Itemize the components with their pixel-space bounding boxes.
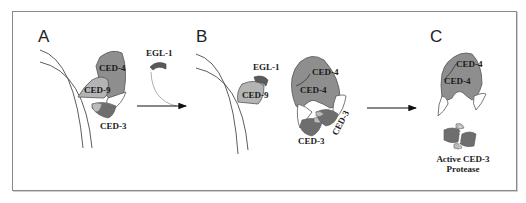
- ced3-left-label: CED-3: [298, 136, 325, 146]
- ced3-label: CED-3: [100, 121, 127, 131]
- ced9-label: CED-9: [242, 90, 269, 100]
- protease-caption-line2: Protease: [447, 164, 480, 174]
- ced9-label: CED-9: [84, 85, 111, 95]
- ced4-oligomer: [292, 56, 341, 108]
- egl1-binding-curve: [151, 72, 176, 106]
- ced3-subunit: [460, 132, 476, 147]
- ced4-top-label: CED-4: [312, 67, 339, 77]
- ced4-card-left: [438, 96, 448, 116]
- panel-c-letter: C: [430, 27, 442, 46]
- egl1-protein: [150, 63, 166, 70]
- panel-c: C CED-4 CED-4 Active CED-3 Protease: [430, 27, 490, 174]
- protease-caption-line1: Active CED-3: [436, 154, 490, 164]
- ced4-bottom-label: CED-4: [300, 85, 327, 95]
- panel-b: B EGL-1 CED-9 CED-4 CED-4 CED-3 CED-3: [196, 27, 351, 154]
- ced3-subunit: [444, 128, 460, 143]
- egl1-label: EGL-1: [253, 62, 280, 72]
- ced4-top-label: CED-4: [456, 59, 483, 69]
- egl1-label: EGL-1: [146, 48, 173, 58]
- panel-a-letter: A: [38, 27, 50, 46]
- membrane-inner: [196, 68, 248, 150]
- membrane-outer: [40, 50, 83, 148]
- panel-a: A CED-4 CED-9 CED-3 EGL-1: [38, 27, 176, 148]
- ced4-label: CED-4: [99, 63, 126, 73]
- active-ced3-protease: [444, 124, 476, 150]
- ced4-card-right: [473, 93, 486, 110]
- ced4-bottom-label: CED-4: [444, 76, 471, 86]
- panel-b-letter: B: [196, 27, 207, 46]
- membrane-outer: [196, 54, 238, 154]
- apoptosis-diagram: A CED-4 CED-9 CED-3 EGL-1 B EGL-1 CED-9: [0, 0, 526, 203]
